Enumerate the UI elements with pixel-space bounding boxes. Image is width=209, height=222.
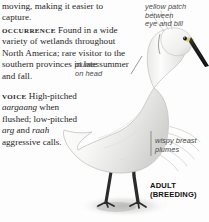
voice-text-1: High-pitched (29, 91, 77, 101)
bird-eye (183, 37, 187, 41)
continuation-line: moving, making it easier to capture. (2, 1, 134, 24)
voice-onomatopoeia-3: raah (32, 125, 49, 135)
plate-caption: ADULT (BREEDING) (150, 181, 197, 199)
voice-paragraph: Voice High-pitched aargaang when flushed… (2, 90, 78, 148)
occurrence-label: Occurrence (2, 24, 56, 35)
caption-line-1: ADULT (150, 181, 197, 190)
occurrence-paragraph: Occurrence Found in a wide variety of we… (2, 24, 134, 82)
voice-onomatopoeia-2: arg (2, 125, 14, 135)
caption-line-2: (BREEDING) (150, 190, 197, 199)
annotation-line: eye and bill (145, 20, 186, 29)
species-account-text: moving, making it easier to capture. Occ… (2, 1, 134, 82)
field-guide-page: moving, making it easier to capture. Occ… (0, 0, 209, 222)
voice-label: Voice (2, 90, 27, 101)
annotation-head-plumes: plumes on head (75, 61, 102, 78)
annotation-yellow-patch: yellow patch between eye and bill (145, 3, 186, 29)
voice-onomatopoeia-1: aargaang (2, 102, 37, 112)
bird-body (64, 88, 169, 173)
annotation-breast-plumes: wispy breast plumes (155, 137, 197, 154)
annotation-line: plumes (155, 146, 197, 155)
annotation-line: on head (75, 70, 102, 79)
voice-text-3: aggressive calls. (2, 137, 62, 147)
voice-conjunction: and (17, 125, 30, 135)
